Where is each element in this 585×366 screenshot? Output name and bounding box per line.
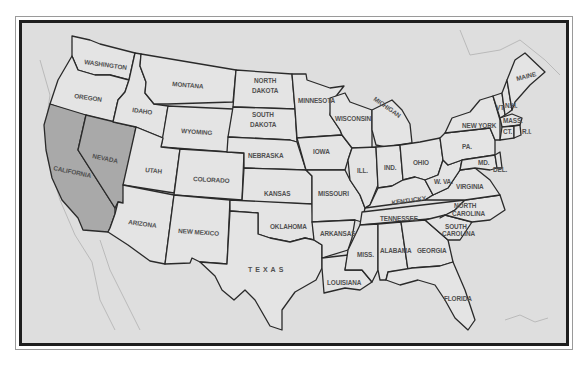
label-missouri: MISSOURI bbox=[318, 190, 349, 197]
label-west-virginia: W. VA. bbox=[434, 178, 453, 185]
label-new-hampshire: N.H. bbox=[505, 102, 518, 109]
baja-coastline bbox=[100, 240, 140, 330]
label-minnesota: MINNESOTA bbox=[298, 97, 335, 104]
label-pennsylvania: PA. bbox=[462, 143, 472, 150]
state-montana[interactable] bbox=[140, 54, 236, 104]
map-frame: WASHINGTON OREGON CALIFORNIA NEVADA IDAH… bbox=[19, 20, 569, 346]
label-north-dakota-2: DAKOTA bbox=[252, 87, 279, 94]
label-north-carolina-2: CAROLINA bbox=[452, 210, 485, 217]
label-ohio: OHIO bbox=[413, 159, 429, 166]
label-south-dakota-1: SOUTH bbox=[252, 111, 274, 118]
label-georgia: GEORGIA bbox=[417, 247, 447, 254]
label-oklahoma: OKLAHOMA bbox=[270, 223, 307, 230]
label-indiana: IND. bbox=[384, 164, 397, 171]
label-louisiana: LOUISIANA bbox=[327, 279, 362, 286]
label-florida: FLORIDA bbox=[444, 295, 472, 302]
label-wisconsin: WISCONSIN bbox=[335, 115, 372, 122]
label-connecticut: CT. bbox=[503, 128, 513, 135]
label-nebraska: NEBRASKA bbox=[248, 152, 284, 159]
label-north-dakota-1: NORTH bbox=[254, 77, 277, 84]
label-tennessee: TENNESSEE bbox=[380, 215, 419, 222]
label-texas: TEXAS bbox=[248, 266, 286, 273]
label-south-dakota-2: DAKOTA bbox=[250, 121, 277, 128]
label-vermont: VT. bbox=[496, 104, 505, 111]
label-south-carolina-1: SOUTH bbox=[445, 223, 467, 230]
canada-coastline bbox=[460, 30, 560, 75]
label-new-york: NEW YORK bbox=[462, 122, 497, 129]
label-delaware: DEL. bbox=[493, 166, 507, 173]
label-illinois: ILL. bbox=[357, 167, 368, 174]
state-rhode-island[interactable] bbox=[514, 125, 521, 138]
label-south-carolina-2: CAROLINA bbox=[442, 230, 475, 237]
label-north-carolina-1: NORTH bbox=[454, 202, 477, 209]
label-alabama: ALABAMA bbox=[380, 247, 412, 254]
label-maryland: MD. bbox=[478, 159, 490, 166]
label-massachusetts: MASS. bbox=[503, 117, 523, 124]
state-kansas[interactable] bbox=[242, 168, 312, 204]
label-virginia: VIRGINIA bbox=[456, 183, 484, 190]
label-mississippi: MISS. bbox=[357, 251, 374, 258]
label-rhode-island: R.I. bbox=[522, 128, 532, 135]
us-map: WASHINGTON OREGON CALIFORNIA NEVADA IDAH… bbox=[22, 23, 566, 343]
state-colorado[interactable] bbox=[174, 149, 244, 200]
label-kansas: KANSAS bbox=[264, 190, 291, 197]
caribbean-islands bbox=[505, 315, 548, 322]
label-arkansas: ARKANSAS bbox=[320, 230, 356, 237]
label-iowa: IOWA bbox=[313, 148, 330, 155]
